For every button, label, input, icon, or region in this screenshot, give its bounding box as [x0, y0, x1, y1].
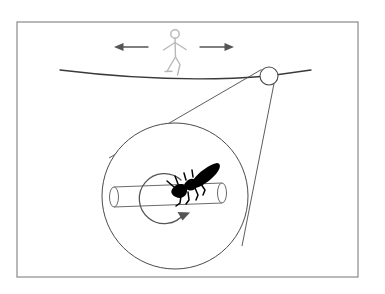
cone-line-lower: [242, 84, 274, 247]
walker-left-leg: [167, 57, 176, 72]
walker-head: [171, 30, 179, 38]
diagram-canvas: [0, 0, 385, 294]
magnified-point-on-rope: [260, 67, 278, 85]
right-direction-arrow: [200, 43, 234, 51]
stick-figure-tightrope-walker: [164, 30, 187, 75]
left-direction-arrow: [114, 43, 148, 51]
walker-right-leg: [176, 57, 181, 75]
walker-torso: [175, 38, 176, 57]
rope-cylinder-cross-section: [110, 183, 227, 207]
figure-root: [0, 0, 385, 294]
direction-arrows: [114, 43, 234, 51]
tightrope-scene: [60, 30, 311, 85]
insect-leg-6: [192, 170, 193, 177]
cylinder-right-cap: [218, 183, 227, 203]
cylinder-left-cap: [110, 187, 119, 207]
magnified-view: [102, 123, 248, 269]
